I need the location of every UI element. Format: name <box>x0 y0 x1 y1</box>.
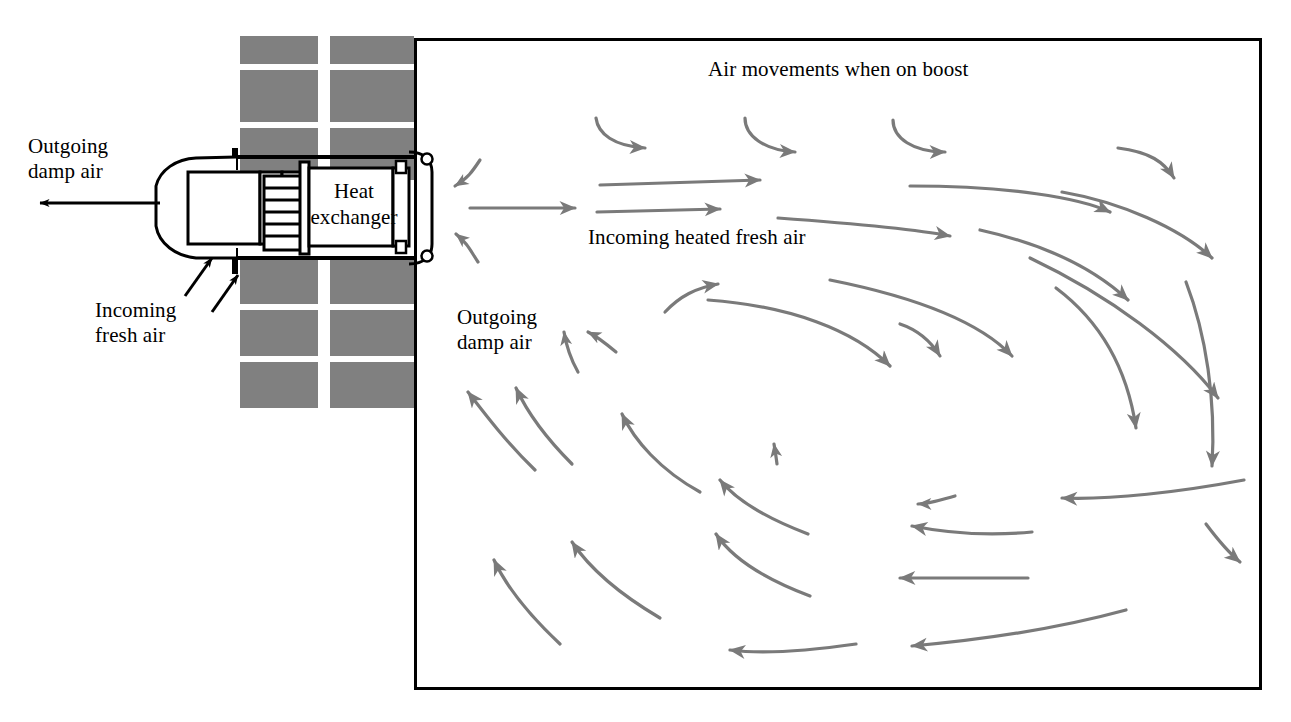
label-incoming-fresh-air: Incoming fresh air <box>95 298 176 348</box>
filter-grille <box>264 176 302 250</box>
label-outgoing-damp-air-outside: Outgoing damp air <box>28 134 108 184</box>
fixing-screw-top <box>422 154 433 165</box>
incoming-fresh-air-arrow-2 <box>212 275 238 312</box>
incoming-fresh-air-arrow-1 <box>185 258 212 296</box>
fan-chamber <box>188 172 260 244</box>
label-heat-exchanger: Heat exchanger <box>305 178 403 230</box>
diagram-root: Outgoing damp air Incoming fresh air Hea… <box>0 0 1291 722</box>
label-incoming-heated-fresh-air: Incoming heated fresh air <box>588 225 806 250</box>
diagram-canvas <box>0 0 1291 722</box>
panel-title: Air movements when on boost <box>708 57 969 82</box>
fixing-screw-bottom <box>422 251 433 262</box>
label-outgoing-damp-air-room: Outgoing damp air <box>457 305 537 355</box>
room-panel-frame <box>416 40 1261 689</box>
